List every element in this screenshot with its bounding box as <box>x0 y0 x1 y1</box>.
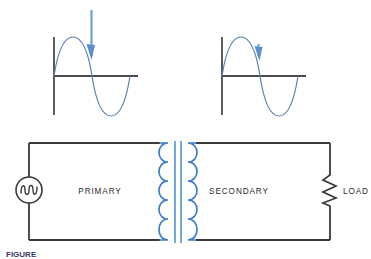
transformer-core <box>175 141 181 243</box>
load-resistor-symbol <box>323 175 336 206</box>
figure-canvas: PRIMARY SECONDARY LOAD FIGURE <box>0 0 371 259</box>
transformer-diagram: PRIMARY SECONDARY LOAD FIGURE <box>0 0 371 259</box>
ac-source-symbol <box>16 177 42 203</box>
secondary-coil <box>188 143 197 240</box>
primary-coil-winding <box>159 143 168 240</box>
secondary-waveform-group <box>222 37 306 116</box>
figure-caption: FIGURE <box>6 250 37 259</box>
primary-waveform-group <box>54 10 138 116</box>
secondary-waveform-arrow-head <box>255 46 263 61</box>
primary-coil <box>159 143 168 240</box>
primary-label: PRIMARY <box>78 187 121 196</box>
secondary-label: SECONDARY <box>209 187 269 196</box>
load-resistor-zigzag <box>323 175 336 206</box>
secondary-coil-winding <box>188 143 197 240</box>
load-label: LOAD <box>343 187 369 196</box>
